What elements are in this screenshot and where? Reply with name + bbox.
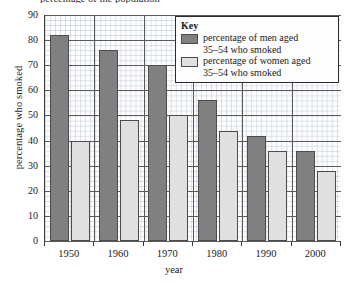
- x-tick-mark: [241, 241, 242, 246]
- x-tick-label-1960: 1960: [93, 248, 143, 259]
- bar-men-1960: [99, 50, 118, 241]
- bar-men-1950: [50, 35, 69, 241]
- gridline-horizontal: [45, 241, 341, 242]
- women-swatch-icon: [181, 57, 198, 67]
- bar-women-2000: [317, 171, 336, 241]
- legend-entry-men-label: percentage of men aged35–54 who smoked: [203, 32, 298, 55]
- bar-women-1970: [169, 115, 188, 241]
- x-axis-title: year: [0, 264, 348, 275]
- gridline-vertical: [94, 15, 95, 241]
- y-tick-label: 80: [14, 35, 38, 45]
- y-tick-label: 30: [14, 161, 38, 171]
- bar-women-1960: [120, 120, 139, 241]
- y-tick-label: 70: [14, 60, 38, 70]
- legend-entry-men: percentage of men aged35–54 who smoked: [181, 32, 334, 55]
- x-tick-mark: [143, 241, 144, 246]
- x-tick-mark: [340, 241, 341, 246]
- bar-men-1980: [198, 100, 217, 241]
- bar-men-2000: [296, 151, 315, 241]
- x-tick-mark: [291, 241, 292, 246]
- x-tick-mark: [192, 241, 193, 246]
- men-swatch-icon: [181, 34, 198, 44]
- x-tick-mark: [93, 241, 94, 246]
- y-tick-label: 40: [14, 136, 38, 146]
- x-tick-label-1950: 1950: [44, 248, 94, 259]
- y-tick-label: 60: [14, 85, 38, 95]
- y-axis-tick-labels: 0102030405060708090: [14, 8, 38, 248]
- legend-entry-women-label: percentage of women aged35–54 who smoked: [203, 55, 310, 78]
- legend-title: Key: [181, 20, 334, 31]
- y-tick-label: 10: [14, 211, 38, 221]
- y-tick-label: 50: [14, 110, 38, 120]
- y-tick-label: 90: [14, 10, 38, 20]
- x-tick-label-1990: 1990: [241, 248, 291, 259]
- x-tick-label-1970: 1970: [142, 248, 192, 259]
- bar-women-1980: [219, 131, 238, 241]
- bar-chart-figure: percentage of the population percentage …: [0, 0, 348, 283]
- bar-women-1950: [71, 141, 90, 241]
- bar-men-1970: [148, 65, 167, 241]
- legend-entry-women: percentage of women aged35–54 who smoked: [181, 55, 334, 78]
- gridline-vertical: [144, 15, 145, 241]
- figure-caption: percentage of the population: [40, 0, 340, 3]
- y-tick-label: 20: [14, 186, 38, 196]
- chart-legend: Key percentage of men aged35–54 who smok…: [175, 16, 339, 83]
- bar-women-1990: [268, 151, 287, 241]
- bar-men-1990: [247, 136, 266, 241]
- x-tick-label-2000: 2000: [290, 248, 340, 259]
- x-tick-label-1980: 1980: [192, 248, 242, 259]
- y-tick-label: 0: [14, 236, 38, 246]
- x-tick-mark: [44, 241, 45, 246]
